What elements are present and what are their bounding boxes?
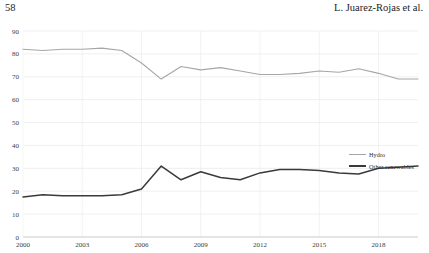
legend-label-hydro: Hydro (369, 151, 385, 158)
x-axis-tick-label: 2003 (75, 241, 90, 249)
y-axis-tick-label: 20 (12, 188, 20, 196)
chart-canvas: 0102030405060708090200020032006200920122… (0, 22, 429, 253)
page-header: 58 L. Juarez-Rojas et al. (0, 0, 429, 22)
legend-item-hydro: Hydro (349, 149, 429, 159)
x-axis-tick-label: 2018 (372, 241, 387, 249)
line-chart-figure: 0102030405060708090200020032006200920122… (0, 22, 429, 253)
y-axis-tick-label: 50 (12, 119, 20, 127)
y-axis-tick-label: 30 (12, 165, 20, 173)
x-axis-tick-label: 2000 (16, 241, 31, 249)
legend-item-other-renewables: Other renewables (349, 161, 429, 171)
legend-label-other-renewables: Other renewables (369, 163, 414, 170)
running-head-authors: L. Juarez-Rojas et al. (334, 2, 423, 13)
y-axis-tick-label: 70 (12, 73, 20, 81)
chart-legend: Hydro Other renewables (349, 149, 429, 173)
y-axis-tick-label: 40 (12, 142, 20, 150)
y-axis-tick-label: 90 (12, 28, 20, 36)
page-number: 58 (5, 2, 16, 13)
x-axis-tick-label: 2015 (312, 241, 327, 249)
y-axis-tick-label: 60 (12, 96, 20, 104)
legend-swatch-other-renewables-icon (349, 165, 366, 167)
x-axis-tick-label: 2012 (253, 241, 268, 249)
x-axis-tick-label: 2006 (135, 241, 150, 249)
y-axis-tick-label: 80 (12, 50, 20, 58)
x-axis-tick-label: 2009 (194, 241, 209, 249)
legend-swatch-hydro-icon (349, 154, 366, 155)
y-axis-tick-label: 10 (12, 211, 20, 219)
